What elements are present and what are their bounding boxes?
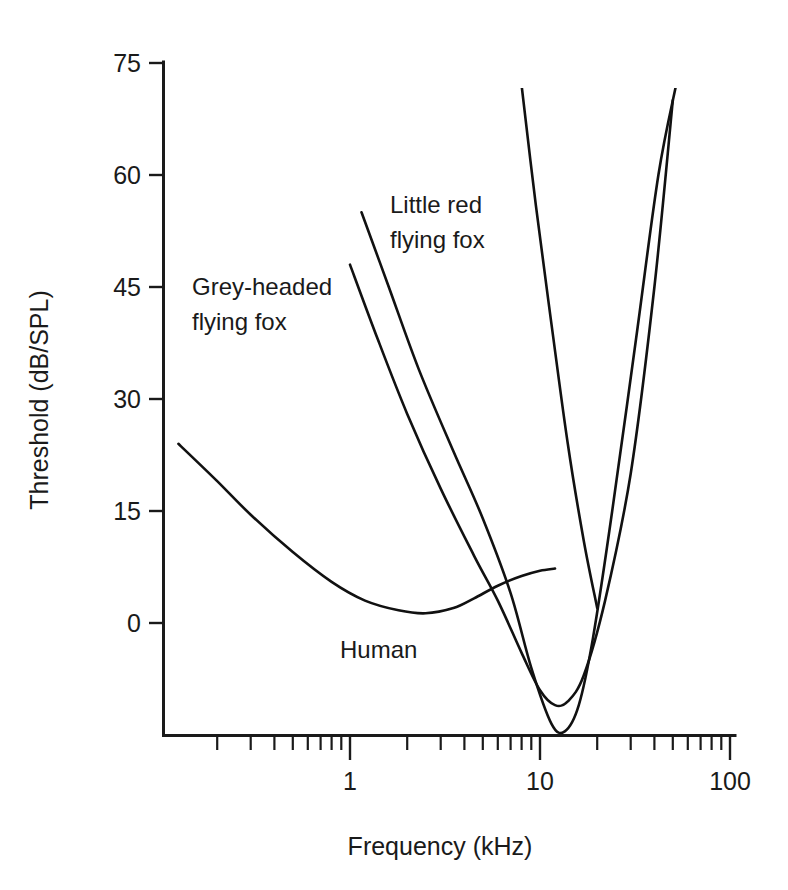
y-axis-title: Threshold (dB/SPL): [25, 290, 53, 510]
label-little-red-line2: flying fox: [390, 226, 485, 253]
series-annotation-little-red: Little red flying fox: [390, 191, 485, 253]
y-tick-label-75: 75: [113, 49, 141, 77]
y-tick-label-45: 45: [113, 273, 141, 301]
curve-human: [178, 444, 555, 614]
x-tick-label-1: 1: [343, 767, 357, 795]
y-tick-label-15: 15: [113, 497, 141, 525]
audiogram-plot: 75 60 45 30 15 0 1 10 100 Frequency (kHz…: [0, 0, 788, 890]
y-tick-label-0: 0: [127, 609, 141, 637]
curves-group: [178, 85, 676, 733]
audiogram-figure: 75 60 45 30 15 0 1 10 100 Frequency (kHz…: [0, 0, 788, 890]
label-grey-headed-line1: Grey-headed: [192, 273, 332, 300]
y-tick-label-30: 30: [113, 385, 141, 413]
y-tick-label-60: 60: [113, 161, 141, 189]
y-axis-ticks: [149, 63, 163, 623]
label-little-red-line1: Little red: [390, 191, 482, 218]
x-tick-label-100: 100: [709, 767, 751, 795]
x-axis-title: Frequency (kHz): [348, 832, 533, 860]
x-axis-tick-labels: 1 10 100: [343, 767, 751, 795]
series-annotation-grey-headed: Grey-headed flying fox: [192, 273, 332, 335]
x-tick-label-10: 10: [526, 767, 554, 795]
curve-grey-headed-flying-fox-upper-branch: [522, 85, 598, 608]
axis-lines: [164, 62, 736, 736]
axes-group: [164, 62, 736, 736]
y-axis-tick-labels: 75 60 45 30 15 0: [113, 49, 141, 637]
label-human: Human: [340, 636, 417, 663]
label-grey-headed-line2: flying fox: [192, 308, 287, 335]
x-axis-ticks: [217, 735, 730, 760]
